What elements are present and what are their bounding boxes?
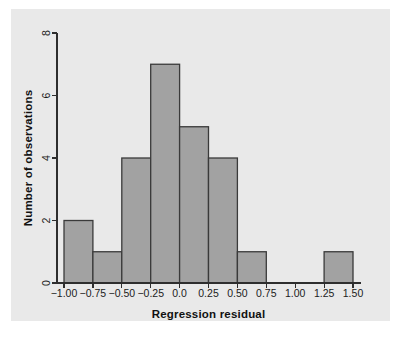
y-tick-label: 8: [40, 30, 52, 36]
x-tick-label: 1.00: [285, 287, 306, 299]
x-tick-label: −0.50: [109, 287, 136, 299]
x-tick-label: −0.25: [137, 287, 164, 299]
x-tick-label: −0.75: [80, 287, 107, 299]
x-tick-label: 0.50: [227, 287, 248, 299]
histogram-bar: [93, 252, 122, 283]
bars-group: [64, 64, 353, 283]
histogram-bar: [180, 127, 209, 283]
x-tick-label: 1.25: [314, 287, 335, 299]
histogram-bar: [151, 64, 180, 283]
x-axis-title: Regression residual: [152, 308, 266, 320]
x-tick-label: 0.75: [256, 287, 277, 299]
x-tick-labels-group: −1.00−0.75−0.50−0.250.00.250.500.751.001…: [51, 287, 364, 299]
histogram-chart: −1.00−0.75−0.50−0.250.00.250.500.751.001…: [0, 0, 402, 346]
y-tick-labels-group: 02468: [40, 30, 52, 286]
histogram-bar: [64, 221, 93, 284]
y-tick-label: 4: [40, 155, 52, 161]
x-tick-label: 1.50: [343, 287, 364, 299]
x-tick-label: 0.25: [198, 287, 219, 299]
histogram-bar: [122, 158, 151, 283]
x-tick-label: 0.0: [172, 287, 187, 299]
y-tick-label: 0: [40, 280, 52, 286]
x-tick-label: −1.00: [51, 287, 78, 299]
y-axis-title: Number of observations: [22, 90, 34, 227]
y-tick-label: 6: [40, 92, 52, 98]
histogram-bar: [324, 252, 353, 283]
y-tick-label: 2: [40, 217, 52, 223]
figure-container: −1.00−0.75−0.50−0.250.00.250.500.751.001…: [0, 0, 402, 346]
histogram-bar: [237, 252, 266, 283]
histogram-bar: [209, 158, 238, 283]
